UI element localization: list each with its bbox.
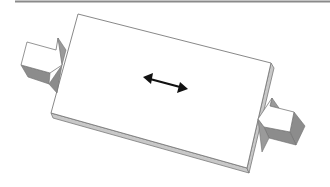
slab: [51, 14, 274, 173]
slab-compression-diagram: [0, 0, 330, 187]
